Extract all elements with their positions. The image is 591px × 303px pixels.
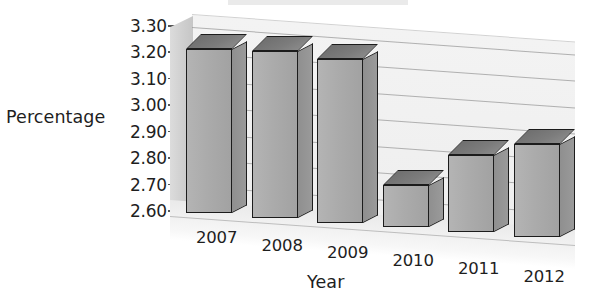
x-tick-label-2007: 2007 (196, 228, 237, 247)
y-tick-label: 3.30 (105, 16, 167, 36)
cropped-chart-title (228, 0, 408, 5)
y-tick-label: 2.80 (105, 148, 167, 168)
bar-front-face (448, 155, 494, 232)
bar-side-face (298, 44, 313, 218)
x-axis-title: Year (307, 272, 344, 292)
x-tick-label-2009: 2009 (327, 243, 368, 262)
x-tick-label-2010: 2010 (393, 251, 434, 270)
y-tick-label: 2.60 (105, 201, 167, 221)
bar-side-face (363, 51, 378, 222)
bar-2010 (383, 185, 429, 227)
y-tick-label: 2.90 (105, 122, 167, 142)
bar-front-face (383, 185, 429, 227)
plot-area (170, 14, 575, 239)
bar-front-face (186, 49, 232, 213)
y-tick-label: 3.20 (105, 42, 167, 62)
x-tick-label-2011: 2011 (458, 259, 499, 278)
y-tick-label: 3.10 (105, 69, 167, 89)
bar-front-face (317, 59, 363, 223)
y-axis-title: Percentage (6, 107, 105, 127)
bar-side-face (560, 136, 575, 236)
bar-2011 (448, 155, 494, 232)
y-tick-label: 2.70 (105, 175, 167, 195)
x-tick-label-2012: 2012 (524, 267, 565, 286)
bar-2008 (252, 51, 298, 218)
bar-side-face (232, 42, 247, 213)
bar-2009 (317, 59, 363, 223)
bar-2012 (514, 144, 560, 237)
y-axis-tick-labels: 3.303.203.103.002.902.802.702.60 (105, 0, 167, 303)
bar-side-face (494, 148, 509, 232)
x-tick-label-2008: 2008 (262, 236, 303, 255)
y-tick-label: 3.00 (105, 95, 167, 115)
bar-front-face (252, 51, 298, 218)
bar-2007 (186, 49, 232, 213)
bar-side-face (429, 177, 444, 227)
bar-chart: Percentage 3.303.203.103.002.902.802.702… (0, 0, 591, 303)
bar-front-face (514, 144, 560, 237)
